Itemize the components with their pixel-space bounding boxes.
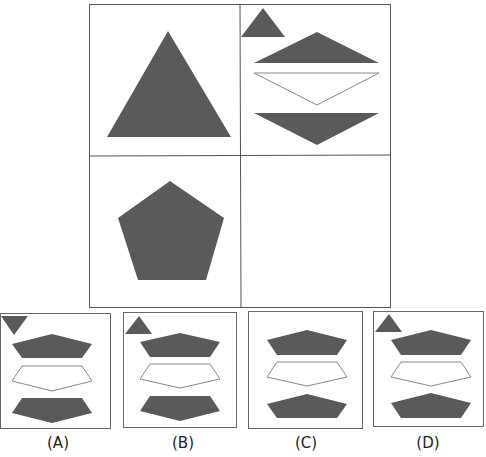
option-c[interactable] — [249, 312, 363, 429]
pentagon-shape — [118, 181, 224, 280]
grid-horizontal-divider — [90, 155, 391, 156]
bottom-triangle-piece — [254, 113, 379, 145]
option-b[interactable] — [124, 313, 237, 428]
middle-outline-triangle-piece — [254, 73, 379, 105]
option-a-label: (A) — [38, 434, 78, 452]
large-triangle-shape — [107, 31, 231, 137]
grid-vertical-divider — [240, 5, 241, 308]
option-b-label: (B) — [163, 434, 203, 452]
small-up-triangle-shape — [241, 8, 285, 37]
puzzle-figure — [0, 0, 486, 457]
option-a[interactable] — [1, 314, 111, 429]
option-d[interactable] — [374, 312, 484, 427]
option-c-label: (C) — [286, 434, 326, 452]
split-triangle-cell — [241, 8, 379, 145]
option-d-label: (D) — [408, 434, 448, 452]
